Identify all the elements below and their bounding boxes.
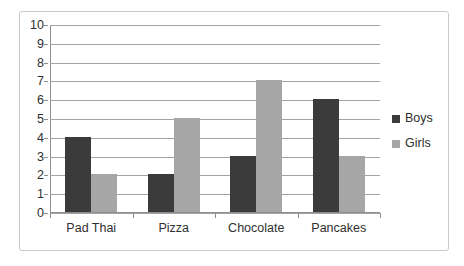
y-axis-tick-labels: 109876543210 [12, 25, 44, 213]
y-axis-tick-mark [44, 25, 48, 26]
y-axis-tick-mark [44, 194, 48, 195]
bar-group [230, 25, 282, 212]
y-axis-tick-mark [44, 213, 48, 214]
bar-boys-pancakes[interactable] [313, 99, 339, 212]
x-axis-label-pancakes: Pancakes [311, 221, 366, 236]
chart-legend: Boys Girls [392, 112, 446, 162]
y-axis-tick-label: 0 [16, 207, 44, 220]
plot-area [50, 25, 380, 213]
x-axis-label-pad-thai: Pad Thai [66, 221, 116, 236]
bar-girls-pad-thai[interactable] [91, 174, 117, 212]
bar-boys-pad-thai[interactable] [65, 137, 91, 212]
bar-group [148, 25, 200, 212]
legend-item-boys: Boys [392, 112, 446, 125]
y-axis-tick-mark [44, 157, 48, 158]
legend-label-boys: Boys [405, 112, 433, 125]
x-axis-tick-mark [298, 213, 299, 218]
x-axis-tick-mark [133, 213, 134, 218]
legend-item-girls: Girls [392, 137, 446, 150]
bar-boys-pizza[interactable] [148, 174, 174, 212]
y-axis-tick-label: 4 [16, 132, 44, 145]
x-axis-tick-marks [50, 213, 380, 219]
x-axis-category-labels: Pad ThaiPizzaChocolatePancakes [50, 221, 380, 239]
x-axis-tick-mark [215, 213, 216, 218]
y-axis-tick-label: 5 [16, 113, 44, 126]
legend-label-girls: Girls [405, 137, 431, 150]
y-axis-tick-label: 1 [16, 188, 44, 201]
y-axis-tick-label: 8 [16, 56, 44, 69]
chart-container: 109876543210 Pad ThaiPizzaChocolatePanca… [0, 0, 464, 266]
y-axis-tick-mark [44, 119, 48, 120]
y-axis-tick-label: 6 [16, 94, 44, 107]
bar-group [313, 25, 365, 212]
bar-boys-chocolate[interactable] [230, 156, 256, 212]
y-axis-tick-mark [44, 81, 48, 82]
bar-group [65, 25, 117, 212]
y-axis-tick-mark [44, 138, 48, 139]
legend-swatch-boys-icon [392, 115, 400, 123]
y-axis-tick-mark [44, 175, 48, 176]
bar-girls-pizza[interactable] [174, 118, 200, 212]
y-axis-tick-label: 9 [16, 38, 44, 51]
y-axis-tick-mark [44, 44, 48, 45]
x-axis-label-chocolate: Chocolate [228, 221, 284, 236]
x-axis-label-pizza: Pizza [158, 221, 189, 236]
x-axis-tick-mark [380, 213, 381, 218]
bar-girls-chocolate[interactable] [256, 80, 282, 212]
y-axis-tick-mark [44, 63, 48, 64]
y-axis-tick-label: 3 [16, 150, 44, 163]
legend-swatch-girls-icon [392, 140, 400, 148]
x-axis-tick-mark [50, 213, 51, 218]
y-axis-tick-label: 7 [16, 75, 44, 88]
bar-girls-pancakes[interactable] [339, 156, 365, 212]
y-axis-tick-mark [44, 100, 48, 101]
y-axis-tick-label: 2 [16, 169, 44, 182]
y-axis-tick-label: 10 [16, 19, 44, 32]
